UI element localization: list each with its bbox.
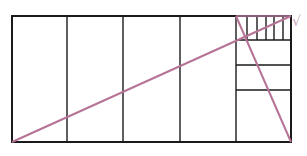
check-mark: √ [292,14,301,28]
long-diagonal [12,16,291,142]
rectangle-subdivision-diagram [0,0,307,156]
